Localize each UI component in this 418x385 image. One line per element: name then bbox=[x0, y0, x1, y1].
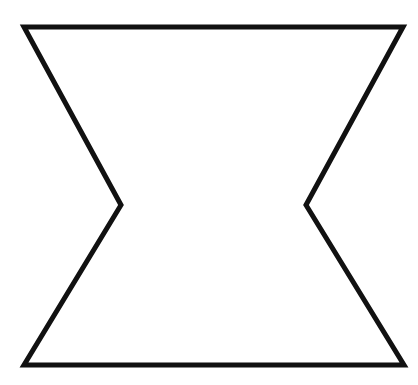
figure-canvas bbox=[0, 0, 418, 385]
shape-figure-svg bbox=[0, 0, 418, 385]
canvas-background bbox=[0, 0, 418, 385]
